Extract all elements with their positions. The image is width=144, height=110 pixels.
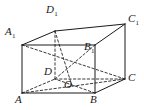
vertex-label-base-C: C [128, 71, 135, 83]
vertex-label-base-A: A [15, 93, 22, 105]
vertex-label-subscript-B1: 1 [91, 47, 95, 55]
diagonal-A1-C [22, 45, 125, 79]
cuboid-figure: ABCDA1B1C1D1O [0, 0, 144, 110]
vertex-label-base-O: O [64, 78, 72, 90]
vertex-label-C: C [128, 72, 135, 83]
vertex-label-D: D [44, 66, 52, 77]
vertex-label-base-B: B [90, 93, 97, 105]
vertex-label-D1: D1 [46, 4, 58, 18]
solid-edge-D1-C1 [55, 24, 125, 31]
vertex-label-C1: C1 [128, 13, 139, 27]
vertex-label-O: O [64, 79, 72, 90]
vertex-label-A: A [15, 94, 22, 105]
interior-diagonals-group [22, 31, 125, 93]
vertex-label-base-D: D [44, 65, 52, 77]
solid-edges-group [22, 24, 125, 93]
vertex-label-base-D1: D [46, 3, 54, 15]
vertex-label-subscript-D1: 1 [54, 10, 58, 18]
hidden-edges-group [22, 31, 125, 93]
solid-edge-B1-C1 [95, 24, 125, 45]
vertex-label-A1: A1 [5, 26, 15, 40]
solid-edge-A1-D1 [22, 31, 55, 45]
vertex-label-base-A1: A [5, 25, 12, 37]
vertex-label-B: B [90, 94, 97, 105]
vertex-label-subscript-A1: 1 [12, 32, 16, 40]
vertex-label-base-B1: B [84, 40, 91, 52]
vertex-label-base-C1: C [128, 12, 135, 24]
diagonal-B-D-through-O [55, 79, 95, 93]
vertex-label-subscript-C1: 1 [136, 19, 140, 27]
vertex-label-B1: B1 [84, 41, 94, 55]
